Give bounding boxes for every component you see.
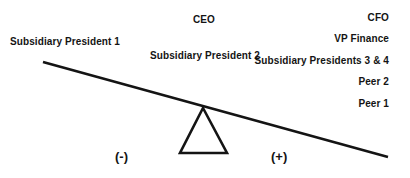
label-peer-2: Peer 2: [358, 76, 389, 88]
positive-polarity-sign: (+): [271, 150, 287, 164]
label-vp-finance: VP Finance: [334, 33, 389, 45]
label-ceo: CEO: [193, 14, 215, 26]
label-subsidiary-presidents-3-and-4: Subsidiary Presidents 3 & 4: [255, 55, 389, 67]
label-subsidiary-president-1: Subsidiary President 1: [10, 36, 120, 48]
lever-diagram-canvas: Subsidiary President 1 CEO Subsidiary Pr…: [0, 0, 410, 178]
lever-graphics: [0, 0, 410, 178]
negative-polarity-sign: (-): [115, 150, 128, 164]
label-peer-1: Peer 1: [358, 98, 389, 110]
label-subsidiary-president-2: Subsidiary President 2: [150, 50, 260, 62]
lever-beam: [43, 62, 388, 157]
label-cfo: CFO: [368, 12, 389, 24]
fulcrum-triangle: [180, 108, 227, 153]
